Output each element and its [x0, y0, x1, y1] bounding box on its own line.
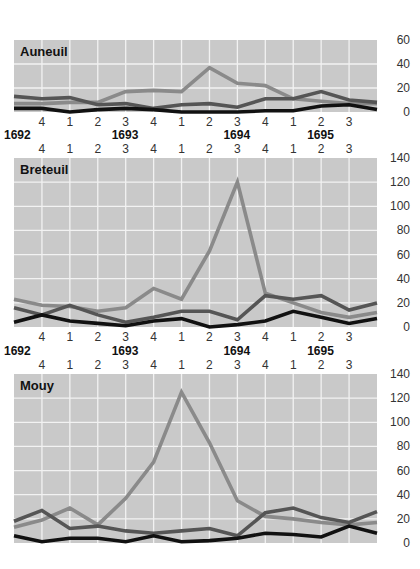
x-tick-label-quarter: 2 — [318, 330, 325, 344]
y-tick-label: 20 — [397, 81, 411, 95]
x-tick-label-year: 1692 — [4, 344, 31, 358]
x-tick-label-quarter: 4 — [150, 115, 157, 129]
x-tick-label-quarter: 3 — [122, 358, 129, 372]
y-tick-label: 60 — [397, 33, 411, 47]
x-tick-label-quarter: 2 — [318, 115, 325, 129]
x-tick-label-year: 1694 — [223, 128, 250, 142]
x-tick-label-quarter: 1 — [290, 142, 297, 156]
y-tick-label: 40 — [397, 272, 411, 286]
x-tick-label-quarter: 1 — [67, 358, 74, 372]
panel-title: Auneuil — [20, 44, 68, 59]
x-tick-label-quarter: 4 — [262, 358, 269, 372]
x-tick-label-quarter: 3 — [234, 142, 241, 156]
x-tick-label-quarter: 3 — [234, 115, 241, 129]
x-tick-label-quarter: 3 — [122, 330, 129, 344]
x-tick-label-year: 1694 — [223, 344, 250, 358]
y-tick-label: 80 — [397, 223, 411, 237]
x-tick-label-quarter: 3 — [346, 330, 353, 344]
x-tick-label-quarter: 1 — [67, 115, 74, 129]
x-tick-label-quarter: 3 — [234, 358, 241, 372]
y-tick-label: 20 — [397, 296, 411, 310]
x-tick-label-quarter: 2 — [206, 115, 213, 129]
panel-title: Mouy — [20, 378, 55, 393]
x-tick-label-quarter: 2 — [206, 358, 213, 372]
x-tick-label-quarter: 4 — [39, 142, 46, 156]
y-tick-label: 0 — [403, 320, 410, 334]
y-tick-label: 40 — [397, 488, 411, 502]
x-tick-label-quarter: 2 — [318, 142, 325, 156]
y-tick-label: 60 — [397, 464, 411, 478]
y-tick-label: 120 — [390, 175, 410, 189]
x-tick-label-quarter: 2 — [94, 358, 101, 372]
auneuil-panel: 0204060Auneuil — [14, 33, 410, 119]
x-tick-label-quarter: 1 — [178, 142, 185, 156]
x-tick-label-quarter: 3 — [234, 330, 241, 344]
y-tick-label: 120 — [390, 391, 410, 405]
x-tick-label-year: 1695 — [307, 344, 334, 358]
auneuil-x-axis-labels: 4123412341231692169316941695412341234123 — [4, 115, 353, 156]
x-tick-label-quarter: 2 — [206, 330, 213, 344]
y-tick-label: 0 — [403, 105, 410, 119]
x-tick-label-quarter: 1 — [67, 142, 74, 156]
x-tick-label-year: 1693 — [112, 344, 139, 358]
x-tick-label-quarter: 1 — [290, 115, 297, 129]
x-tick-label-quarter: 4 — [262, 142, 269, 156]
x-tick-label-quarter: 1 — [67, 330, 74, 344]
y-tick-label: 140 — [390, 367, 410, 381]
x-tick-label-quarter: 1 — [178, 330, 185, 344]
x-tick-label-year: 1693 — [112, 128, 139, 142]
panel-title: Breteuil — [20, 162, 68, 177]
x-tick-label-quarter: 2 — [94, 330, 101, 344]
x-tick-label-quarter: 3 — [122, 115, 129, 129]
x-tick-label-year: 1692 — [4, 128, 31, 142]
x-tick-label-quarter: 1 — [290, 330, 297, 344]
y-tick-label: 80 — [397, 439, 411, 453]
x-tick-label-quarter: 4 — [39, 115, 46, 129]
x-tick-label-quarter: 3 — [346, 358, 353, 372]
x-tick-label-quarter: 4 — [39, 330, 46, 344]
mouy-panel: 020406080100120140Mouy — [14, 367, 410, 550]
y-tick-label: 100 — [390, 199, 410, 213]
x-tick-label-quarter: 2 — [318, 358, 325, 372]
breteuil-x-axis-labels: 4123412341231692169316941695412341234123 — [4, 330, 353, 372]
y-tick-label: 60 — [397, 248, 411, 262]
x-tick-label-quarter: 1 — [178, 115, 185, 129]
x-tick-label-quarter: 3 — [346, 115, 353, 129]
y-tick-label: 20 — [397, 512, 411, 526]
x-tick-label-quarter: 3 — [346, 142, 353, 156]
y-tick-label: 0 — [403, 536, 410, 550]
x-tick-label-quarter: 4 — [150, 330, 157, 344]
x-tick-label-quarter: 4 — [262, 115, 269, 129]
chart-figure: 0204060Auneuil 4123412341231692169316941… — [0, 0, 420, 569]
x-tick-label-quarter: 1 — [178, 358, 185, 372]
x-tick-label-quarter: 4 — [150, 358, 157, 372]
x-tick-label-quarter: 2 — [94, 115, 101, 129]
y-tick-label: 40 — [397, 57, 411, 71]
x-tick-label-quarter: 1 — [290, 358, 297, 372]
x-tick-label-quarter: 4 — [262, 330, 269, 344]
x-tick-label-year: 1695 — [307, 128, 334, 142]
y-tick-label: 140 — [390, 151, 410, 165]
x-tick-label-quarter: 2 — [94, 142, 101, 156]
x-tick-label-quarter: 2 — [206, 142, 213, 156]
x-tick-label-quarter: 4 — [150, 142, 157, 156]
x-tick-label-quarter: 3 — [122, 142, 129, 156]
plot-background — [14, 158, 377, 327]
breteuil-panel: 020406080100120140Breteuil — [14, 151, 410, 334]
y-tick-label: 100 — [390, 415, 410, 429]
x-tick-label-quarter: 4 — [39, 358, 46, 372]
